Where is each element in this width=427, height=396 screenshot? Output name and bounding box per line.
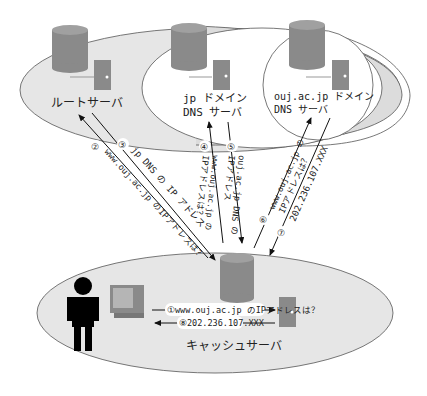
dns-diagram: ルートサーバ jp ドメイン DNS サーバ ouj.ac.jp ドメイン DN… [0,0,427,396]
computer-icon [110,285,144,318]
database-icon [52,25,88,73]
ouj-server-label-line1: ouj.ac.jp ドメイン [274,91,374,102]
step-6-number: ⑥ [259,215,267,225]
server-icon [332,60,349,90]
database-icon [289,20,325,70]
ouj-server-label-line2: DNS サーバ [274,104,328,115]
step-3-number: ③ [118,140,126,150]
step-4-number: ④ [200,142,208,152]
jp-server-label-line2: DNS サーバ [183,106,243,119]
step-1-label: ①www.ouj.ac.jp のIPアドレスは？ [167,305,320,315]
server-icon [213,60,230,90]
step-1-query: ①www.ouj.ac.jp のIPアドレスは？ [152,303,320,316]
database-icon [171,23,207,71]
cache-server-label: キャッシュサーバ [186,339,282,353]
step-7-number: ⑦ [277,228,285,238]
step-8-label: ⑧202.236.107.XXX [179,318,265,328]
step-5-number: ⑤ [227,142,235,152]
step-2-number: ② [91,142,99,152]
root-server-label: ルートサーバ [51,96,123,110]
server-icon [94,60,111,90]
database-icon [220,253,254,303]
jp-server-label-line1: jp ドメイン [183,92,247,105]
